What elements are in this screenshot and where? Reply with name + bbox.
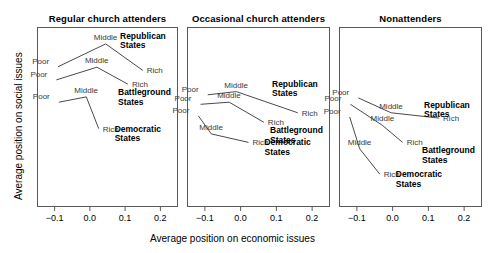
series-label-battleground: BattlegroundStates — [422, 146, 475, 165]
series-label-republican: RepublicanStates — [120, 32, 166, 51]
point-label-middle: Middle — [371, 114, 395, 123]
series-label-democratic: DemocraticStates — [264, 138, 310, 157]
x-axis-title: Average position on economic issues — [150, 233, 315, 244]
series-label-battleground: BattlegroundStates — [118, 88, 171, 107]
point-label-middle: Middle — [74, 86, 98, 95]
point-label-poor: Poor — [30, 70, 47, 79]
point-label-middle: Middle — [224, 81, 248, 90]
series-label-democratic: DemocraticStates — [115, 125, 161, 144]
point-label-rich: Rich — [147, 66, 163, 75]
point-label-poor: Poor — [324, 94, 341, 103]
panel-frame-regular — [37, 27, 178, 207]
x-tick-label: −0.1 — [41, 213, 69, 223]
x-tick-label: 0.0 — [76, 213, 104, 223]
point-label-poor: Poor — [182, 85, 199, 94]
point-label-middle: Middle — [85, 56, 109, 65]
series-label-democratic: DemocraticStates — [396, 170, 442, 189]
point-label-rich: Rich — [407, 138, 423, 147]
x-tick-label: 0.1 — [414, 213, 442, 223]
x-tick-label: 0.0 — [379, 213, 407, 223]
x-tick-label: 0.1 — [111, 213, 139, 223]
point-label-poor: Poor — [172, 106, 189, 115]
x-tick-label: 0.1 — [262, 213, 290, 223]
series-label-republican: RepublicanStates — [272, 80, 318, 99]
point-label-middle: Middle — [379, 102, 403, 111]
x-tick-label: −0.1 — [191, 213, 219, 223]
point-label-middle: Middle — [199, 123, 223, 132]
series-label-republican: RepublicanStates — [424, 101, 470, 120]
panel-title-occasional: Occasional church attenders — [187, 13, 330, 24]
point-label-poor: Poor — [175, 94, 192, 103]
point-label-middle: Middle — [94, 33, 118, 42]
x-tick-label: 0.2 — [146, 213, 174, 223]
x-tick-label: 0.2 — [298, 213, 326, 223]
panel-title-nonattenders: Nonattenders — [339, 13, 482, 24]
x-tick-label: 0.2 — [450, 213, 478, 223]
x-tick-label: −0.1 — [343, 213, 371, 223]
point-label-poor: Poor — [33, 92, 50, 101]
figure: Average position on social issues Averag… — [0, 0, 496, 253]
point-label-poor: Poor — [324, 107, 341, 116]
point-label-middle: Middle — [217, 91, 241, 100]
x-tick-label: 0.0 — [227, 213, 255, 223]
point-label-middle: Middle — [348, 138, 372, 147]
panel-title-regular: Regular church attenders — [37, 13, 178, 24]
y-axis-title: Average position on social issues — [13, 52, 24, 200]
point-label-rich: Rich — [302, 109, 318, 118]
point-label-poor: Poor — [32, 57, 49, 66]
